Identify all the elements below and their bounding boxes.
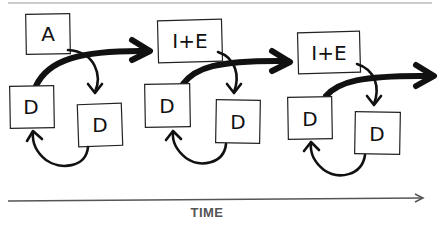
box-d-5-label: D: [302, 107, 317, 131]
box-d-2-label: D: [92, 113, 107, 137]
progress-arrow-1: [36, 51, 148, 86]
arrowhead-icon: [27, 131, 42, 141]
time-axis-label: TIME: [190, 205, 223, 220]
stage-3: I+E D D: [288, 31, 434, 175]
time-axis: [8, 198, 422, 201]
box-d-1-label: D: [23, 95, 38, 119]
stage-1: A D D: [10, 14, 150, 166]
box-a-label: A: [41, 22, 55, 46]
box-d-4-label: D: [230, 110, 245, 134]
stage-2: I+E D D: [145, 19, 290, 163]
box-ie-3-label: I+E: [311, 41, 346, 65]
box-d-6-label: D: [369, 122, 384, 146]
diagram-canvas: A D D I+E D D I+E D: [0, 0, 447, 233]
box-d-3-label: D: [159, 94, 174, 118]
box-ie-2-label: I+E: [172, 29, 207, 53]
